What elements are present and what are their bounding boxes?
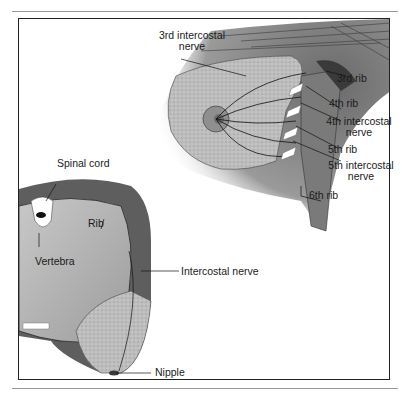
label-line: nerve [322,171,400,182]
label-3rd-intercostal-nerve: 3rd intercostal nerve [150,30,234,52]
bottom-rule [12,388,398,389]
label-5th-intercostal-nerve: 5th intercostal nerve [322,160,400,182]
label-spinal-cord: Spinal cord [57,158,110,169]
label-5th-rib: 5th rib [328,144,357,155]
label-4th-intercostal-nerve: 4th intercostal nerve [320,116,398,138]
label-6th-rib: 6th rib [309,190,338,201]
label-line: nerve [320,127,398,138]
cross-section-view [19,179,179,375]
label-line: nerve [150,41,234,52]
label-3rd-rib: 3rd rib [337,73,367,84]
label-nipple: Nipple [155,367,185,378]
top-rule [12,11,398,12]
label-intercostal-nerve: Intercostal nerve [181,266,259,277]
label-rib: Rib [88,218,104,229]
label-vertebra: Vertebra [35,256,75,267]
label-4th-rib: 4th rib [329,98,358,109]
